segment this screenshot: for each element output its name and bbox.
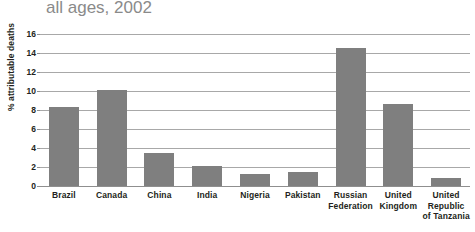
x-tick-label-line: Kingdom: [374, 201, 422, 212]
y-tick-label-12: 12: [27, 67, 36, 77]
x-tick-label-line: Pakistan: [279, 190, 327, 201]
x-tick-label-line: Russian: [327, 190, 375, 201]
bar-china: [144, 153, 174, 186]
chart-title-line-2: all ages, 2002: [46, 0, 152, 18]
bar-india: [192, 166, 222, 186]
x-tick-label-brazil: Brazil: [40, 190, 88, 201]
y-tick-label-6: 6: [31, 124, 36, 134]
x-tick-label-pakistan: Pakistan: [279, 190, 327, 201]
x-axis-tick-labels: BrazilCanadaChinaIndiaNigeriaPakistanRus…: [40, 190, 470, 232]
chart-figure: all ages, 2002 % attributable deaths 024…: [0, 0, 475, 232]
chart-title-block: all ages, 2002: [0, 0, 475, 28]
x-tick-label-line: Canada: [88, 190, 136, 201]
bar-nigeria: [240, 174, 270, 186]
x-tick-label-line: Brazil: [40, 190, 88, 201]
y-tick-label-0: 0: [31, 181, 36, 191]
x-tick-label-line: Federation: [327, 201, 375, 212]
bar-series: [40, 34, 470, 186]
x-tick-label-line: United: [374, 190, 422, 201]
bar-pakistan: [288, 172, 318, 186]
plot-area: 0246810121416: [40, 34, 470, 186]
y-tick-label-8: 8: [31, 105, 36, 115]
y-tick-label-16: 16: [27, 29, 36, 39]
x-tick-label-russian-federation: RussianFederation: [327, 190, 375, 211]
bar-canada: [97, 90, 127, 186]
x-tick-label-line: Nigeria: [231, 190, 279, 201]
bar-russian-federation: [336, 48, 366, 186]
x-tick-label-line: India: [183, 190, 231, 201]
x-tick-label-united-kingdom: UnitedKingdom: [374, 190, 422, 211]
x-tick-label-line: Republic: [422, 201, 470, 212]
gridline-0: [40, 186, 470, 187]
bar-united-republic-of-tanzania: [431, 178, 461, 186]
y-tick-label-4: 4: [31, 143, 36, 153]
y-tick-mark-0: [37, 186, 40, 187]
bar-brazil: [49, 107, 79, 186]
x-tick-label-nigeria: Nigeria: [231, 190, 279, 201]
x-tick-label-canada: Canada: [88, 190, 136, 201]
x-tick-label-line: United: [422, 190, 470, 201]
x-tick-label-united-republic-of-tanzania: UnitedRepublicof Tanzania: [422, 190, 470, 222]
y-axis-title: % attributable deaths: [6, 2, 16, 132]
x-tick-label-line: of Tanzania: [422, 211, 470, 222]
y-tick-label-2: 2: [31, 162, 36, 172]
bar-united-kingdom: [383, 104, 413, 186]
x-tick-label-line: China: [136, 190, 184, 201]
y-tick-label-14: 14: [27, 48, 36, 58]
y-tick-label-10: 10: [27, 86, 36, 96]
x-tick-label-india: India: [183, 190, 231, 201]
x-tick-label-china: China: [136, 190, 184, 201]
